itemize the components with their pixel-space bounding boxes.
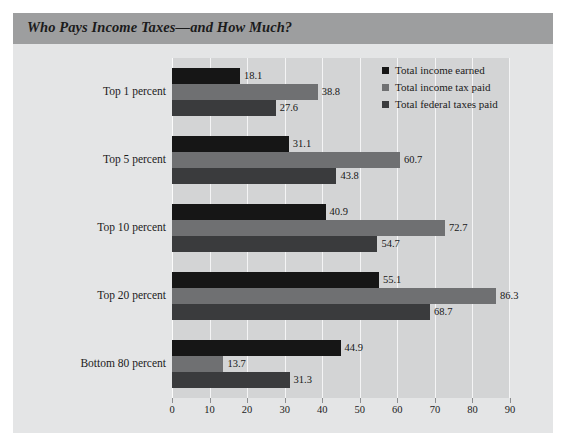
x-tick bbox=[510, 398, 511, 403]
x-tick bbox=[322, 398, 323, 403]
bar bbox=[172, 272, 379, 288]
chart-title: Who Pays Income Taxes—and How Much? bbox=[27, 19, 292, 36]
x-tick-label: 70 bbox=[430, 404, 441, 415]
bar-group: 55.186.368.7 bbox=[172, 272, 510, 320]
category-axis-labels: Top 1 percentTop 5 percentTop 10 percent… bbox=[3, 58, 166, 398]
x-tick-label: 40 bbox=[317, 404, 328, 415]
legend-label: Total federal taxes paid bbox=[395, 97, 498, 112]
legend-item: Total income tax paid bbox=[382, 80, 532, 95]
bar-group: 31.160.743.8 bbox=[172, 136, 510, 184]
legend-label: Total income tax paid bbox=[395, 80, 490, 95]
bar-value-label: 44.9 bbox=[345, 340, 363, 356]
bar bbox=[172, 68, 240, 84]
bar bbox=[172, 220, 445, 236]
bar-group: 40.972.754.7 bbox=[172, 204, 510, 252]
x-tick-label: 50 bbox=[355, 404, 366, 415]
x-tick bbox=[247, 398, 248, 403]
bar bbox=[172, 204, 326, 220]
x-tick-label: 60 bbox=[392, 404, 403, 415]
x-tick-label: 90 bbox=[505, 404, 516, 415]
chart-title-bar: Who Pays Income Taxes—and How Much? bbox=[13, 13, 553, 44]
x-tick-label: 10 bbox=[204, 404, 215, 415]
chart-figure: Who Pays Income Taxes—and How Much? 18.1… bbox=[0, 0, 565, 445]
bar-value-label: 55.1 bbox=[383, 272, 401, 288]
x-tick bbox=[397, 398, 398, 403]
bar bbox=[172, 152, 400, 168]
x-tick bbox=[360, 398, 361, 403]
bar-group: 44.913.731.3 bbox=[172, 340, 510, 388]
legend-label: Total income earned bbox=[395, 63, 485, 78]
bar-value-label: 27.6 bbox=[280, 100, 298, 116]
x-tick bbox=[172, 398, 173, 403]
legend-item: Total income earned bbox=[382, 63, 532, 78]
bar bbox=[172, 340, 341, 356]
bar-value-label: 72.7 bbox=[449, 220, 467, 236]
bar-value-label: 68.7 bbox=[434, 304, 452, 320]
x-tick-label: 30 bbox=[279, 404, 290, 415]
bar bbox=[172, 236, 377, 252]
bar-value-label: 60.7 bbox=[404, 152, 422, 168]
x-tick bbox=[472, 398, 473, 403]
bar bbox=[172, 288, 496, 304]
x-tick bbox=[435, 398, 436, 403]
bar-value-label: 54.7 bbox=[381, 236, 399, 252]
legend-swatch-icon bbox=[382, 84, 389, 91]
bar bbox=[172, 356, 223, 372]
bar-value-label: 38.8 bbox=[322, 84, 340, 100]
bar bbox=[172, 304, 430, 320]
bar bbox=[172, 372, 290, 388]
legend-swatch-icon bbox=[382, 67, 389, 74]
category-label: Bottom 80 percent bbox=[6, 357, 166, 369]
category-label: Top 5 percent bbox=[6, 153, 166, 165]
x-tick bbox=[285, 398, 286, 403]
bar-value-label: 13.7 bbox=[227, 356, 245, 372]
bar bbox=[172, 100, 276, 116]
bar bbox=[172, 168, 336, 184]
bar-value-label: 31.3 bbox=[294, 372, 312, 388]
legend-swatch-icon bbox=[382, 101, 389, 108]
x-tick-label: 20 bbox=[242, 404, 253, 415]
bar bbox=[172, 84, 318, 100]
bar-value-label: 31.1 bbox=[293, 136, 311, 152]
legend-item: Total federal taxes paid bbox=[382, 97, 532, 112]
x-tick bbox=[210, 398, 211, 403]
category-label: Top 1 percent bbox=[6, 85, 166, 97]
category-label: Top 10 percent bbox=[6, 221, 166, 233]
chart-legend: Total income earnedTotal income tax paid… bbox=[382, 63, 532, 114]
bar bbox=[172, 136, 289, 152]
bar-value-label: 43.8 bbox=[340, 168, 358, 184]
bar-value-label: 86.3 bbox=[500, 288, 518, 304]
x-tick-label: 80 bbox=[467, 404, 478, 415]
x-axis: 0102030405060708090 bbox=[172, 398, 510, 420]
category-label: Top 20 percent bbox=[6, 289, 166, 301]
bar-value-label: 18.1 bbox=[244, 68, 262, 84]
bar-value-label: 40.9 bbox=[330, 204, 348, 220]
x-tick-label: 0 bbox=[169, 404, 174, 415]
